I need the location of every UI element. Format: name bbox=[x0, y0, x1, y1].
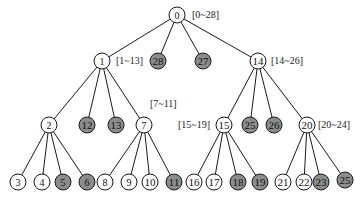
node-label: 6 bbox=[85, 177, 90, 188]
node-label: 13 bbox=[111, 120, 122, 131]
node-label: 25 bbox=[245, 120, 256, 131]
tree-edge bbox=[307, 125, 321, 182]
range-label-7: [7~11] bbox=[150, 98, 177, 109]
range-label-15: [15~19] bbox=[178, 119, 210, 130]
node-label: 25 bbox=[340, 175, 351, 186]
node-label: 26 bbox=[269, 120, 280, 131]
tree-edge bbox=[42, 125, 49, 182]
tree-node-13: 13 bbox=[108, 117, 124, 133]
tree-node-9: 9 bbox=[121, 174, 137, 190]
tree-node-16: 16 bbox=[186, 174, 202, 190]
tree-edge bbox=[144, 125, 150, 182]
tree-edge bbox=[177, 15, 258, 61]
tree-edge bbox=[18, 125, 49, 182]
tree-edge bbox=[304, 125, 307, 182]
node-label: 7 bbox=[142, 120, 147, 131]
tree-edge bbox=[224, 125, 238, 182]
tree-node-23: 23 bbox=[313, 174, 329, 190]
tree-node-21: 21 bbox=[275, 174, 291, 190]
tree-diagram: 0128271421213715252620345689101116171819… bbox=[0, 0, 355, 197]
tree-node-14: 14 bbox=[250, 53, 266, 69]
node-label: 8 bbox=[103, 177, 108, 188]
tree-node-4: 4 bbox=[34, 174, 50, 190]
tree-edge bbox=[224, 61, 258, 125]
node-label: 16 bbox=[189, 177, 200, 188]
node-label: 10 bbox=[145, 177, 156, 188]
tree-node-11: 11 bbox=[166, 174, 182, 190]
tree-edge bbox=[105, 125, 144, 182]
range-label-14: [14~26] bbox=[271, 55, 303, 66]
node-label: 0 bbox=[175, 10, 180, 21]
tree-edge bbox=[129, 125, 144, 182]
node-label: 3 bbox=[16, 177, 21, 188]
tree-node-15: 15 bbox=[216, 117, 232, 133]
tree-edge bbox=[102, 61, 116, 125]
tree-edge bbox=[144, 125, 174, 182]
node-label: 9 bbox=[127, 177, 132, 188]
node-label: 19 bbox=[255, 177, 266, 188]
tree-node-25: 25 bbox=[242, 117, 258, 133]
tree-node-18: 18 bbox=[230, 174, 246, 190]
tree-node-19: 19 bbox=[252, 174, 268, 190]
tree-node-26: 26 bbox=[266, 117, 282, 133]
node-label: 22 bbox=[299, 177, 310, 188]
node-label: 5 bbox=[61, 177, 66, 188]
tree-nodes: 0128271421213715252620345689101116171819… bbox=[10, 7, 353, 190]
tree-node-7: 7 bbox=[136, 117, 152, 133]
tree-node-2: 2 bbox=[41, 117, 57, 133]
tree-node-8: 8 bbox=[97, 174, 113, 190]
tree-node-3: 3 bbox=[10, 174, 26, 190]
node-label: 27 bbox=[198, 56, 209, 67]
node-label: 1 bbox=[100, 56, 105, 67]
tree-node-10: 10 bbox=[142, 174, 158, 190]
tree-node-6: 6 bbox=[79, 174, 95, 190]
tree-node-1: 1 bbox=[94, 53, 110, 69]
tree-edge bbox=[49, 125, 63, 182]
tree-node-22: 22 bbox=[296, 174, 312, 190]
tree-edge bbox=[307, 125, 345, 180]
range-label-0: [0~28] bbox=[192, 9, 219, 20]
tree-edge bbox=[102, 61, 144, 125]
tree-node-17: 17 bbox=[206, 174, 222, 190]
range-labels: [0~28][1~13][14~26][7~11][15~19][20~24] bbox=[116, 9, 350, 130]
node-label: 11 bbox=[169, 177, 180, 188]
tree-edge bbox=[224, 125, 260, 182]
node-label: 28 bbox=[153, 56, 164, 67]
node-label: 12 bbox=[82, 120, 93, 131]
range-label-1: [1~13] bbox=[116, 55, 143, 66]
tree-edges bbox=[18, 15, 345, 182]
node-label: 14 bbox=[253, 56, 264, 67]
tree-node-28: 28 bbox=[150, 53, 166, 69]
node-label: 4 bbox=[40, 177, 45, 188]
node-label: 23 bbox=[316, 177, 327, 188]
tree-edge bbox=[258, 61, 274, 125]
tree-node-0: 0 bbox=[169, 7, 185, 23]
tree-node-20: 20 bbox=[299, 117, 315, 133]
tree-edge bbox=[49, 125, 87, 182]
range-label-20: [20~24] bbox=[318, 119, 350, 130]
tree-edge bbox=[250, 61, 258, 125]
node-label: 18 bbox=[233, 177, 244, 188]
node-label: 21 bbox=[278, 177, 289, 188]
tree-node-27: 27 bbox=[195, 53, 211, 69]
node-label: 2 bbox=[47, 120, 52, 131]
tree-node-12: 12 bbox=[79, 117, 95, 133]
node-label: 15 bbox=[219, 120, 230, 131]
node-label: 17 bbox=[209, 177, 220, 188]
tree-node-5: 5 bbox=[55, 174, 71, 190]
tree-edge bbox=[283, 125, 307, 182]
tree-node-24: 25 bbox=[337, 172, 353, 188]
tree-edge bbox=[258, 61, 307, 125]
node-label: 20 bbox=[302, 120, 313, 131]
